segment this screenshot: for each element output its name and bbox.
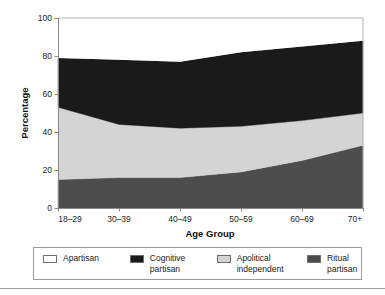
y-tick-label: 80 [43,51,53,61]
x-tick-label: 70+ [348,214,362,224]
legend-item-label: Apolitical independent [237,253,295,274]
x-axis-title: Age Group [185,228,234,239]
x-tick-label: 40–49 [168,214,192,224]
chart-legend: Apartisan Cognitive partisan Apolitical … [33,247,362,280]
legend-swatch-icon [307,255,321,263]
legend-item: Apolitical independent [217,253,295,274]
y-tick-label: 0 [47,203,52,213]
legend-item: Cognitive partisan [130,253,205,274]
y-tick-label: 60 [43,89,53,99]
x-tick-label: 60–69 [290,214,314,224]
legend-swatch-icon [43,255,57,263]
legend-item: Apartisan [43,253,118,264]
x-tick-label: 18–29 [58,214,82,224]
y-axis-ticks: 020406080100 [38,13,58,213]
x-tick-label: 50–59 [229,214,253,224]
x-tick-label: 30–39 [107,214,131,224]
chart-plot-area: 020406080100 18–2930–3940–4950–5960–6970… [0,0,385,240]
legend-item-label: Ritual partisan [327,253,361,274]
figure: 020406080100 18–2930–3940–4950–5960–6970… [0,0,385,295]
legend-item: Ritual partisan [307,253,361,274]
legend-item-label: Apartisan [63,253,99,264]
legend-item-label: Cognitive partisan [150,253,205,274]
footer-divider [0,288,385,289]
y-tick-label: 100 [38,13,52,23]
y-tick-label: 20 [43,165,53,175]
y-tick-label: 40 [43,127,53,137]
stacked-area-chart: 020406080100 18–2930–3940–4950–5960–6970… [0,0,385,240]
area-series-group [58,18,363,208]
y-axis-title: Percentage [19,87,30,138]
legend-swatch-icon [130,255,144,263]
x-axis-ticks: 18–2930–3940–4950–5960–6970+ [58,208,363,224]
legend-swatch-icon [217,255,231,263]
